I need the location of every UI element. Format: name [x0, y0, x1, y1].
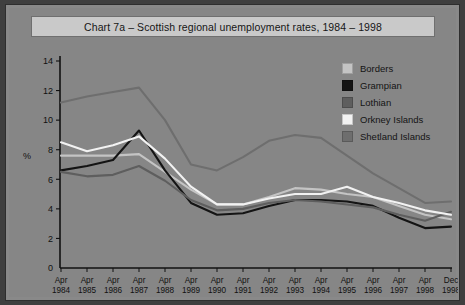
y-tick-label: 4: [48, 204, 53, 214]
x-tick-label-year: 1995: [338, 286, 357, 295]
x-tick-label-year: 1989: [182, 286, 201, 295]
y-tick-label: 12: [43, 86, 53, 96]
x-tick-label-year: 1991: [234, 286, 253, 295]
page-title: Chart 7a – Scottish regional unemploymen…: [84, 21, 382, 33]
chart-title-banner: Chart 7a – Scottish regional unemploymen…: [31, 16, 435, 37]
legend-swatch-icon: [342, 97, 353, 108]
y-tick-label: 2: [48, 234, 53, 244]
legend-item-label: Shetland Islands: [360, 131, 430, 142]
y-axis-ticks: 02468101214: [43, 56, 60, 273]
series-line-lothian: [61, 166, 451, 221]
y-tick-label: 0: [48, 263, 53, 273]
x-tick-label-year: 1990: [208, 286, 227, 295]
x-tick-label-month: Apr: [315, 276, 328, 285]
x-tick-label-year: 1998: [416, 286, 435, 295]
legend-swatch-icon: [342, 63, 353, 74]
chart-panel: Chart 7a – Scottish regional unemploymen…: [9, 8, 456, 297]
x-tick-label-month: Apr: [211, 276, 224, 285]
x-tick-label-year: 1994: [312, 286, 331, 295]
x-tick-label-year: 1986: [104, 286, 123, 295]
x-tick-label-year: 1985: [78, 286, 97, 295]
x-axis-ticks: Apr1984Apr1985Apr1986Apr1987Apr1988Apr19…: [52, 268, 458, 295]
legend-item-orkney-islands[interactable]: Orkney Islands: [342, 111, 465, 128]
x-tick-label-month: Apr: [263, 276, 276, 285]
y-tick-label: 14: [43, 56, 53, 66]
x-tick-label-month: Apr: [185, 276, 198, 285]
x-tick-label-year: 1993: [286, 286, 305, 295]
legend-item-grampian[interactable]: Grampian: [342, 77, 465, 94]
chart-legend: BordersGrampianLothianOrkney IslandsShet…: [342, 60, 465, 145]
legend-item-label: Borders: [360, 63, 393, 74]
x-tick-label-year: 1988: [156, 286, 175, 295]
x-tick-label-year: 1997: [390, 286, 409, 295]
x-tick-label-year: 1992: [260, 286, 279, 295]
legend-item-label: Orkney Islands: [360, 114, 423, 125]
y-axis-label: %: [23, 151, 31, 161]
x-tick-label-month: Apr: [81, 276, 94, 285]
x-tick-label-month: Dec: [444, 276, 458, 285]
y-tick-label: 8: [48, 145, 53, 155]
x-tick-label-month: Apr: [393, 276, 406, 285]
x-tick-label-month: Apr: [289, 276, 302, 285]
legend-item-borders[interactable]: Borders: [342, 60, 465, 77]
x-tick-label-month: Apr: [341, 276, 354, 285]
legend-item-lothian[interactable]: Lothian: [342, 94, 465, 111]
x-tick-label-month: Apr: [419, 276, 432, 285]
legend-item-shetland-islands[interactable]: Shetland Islands: [342, 128, 465, 145]
x-tick-label-year: 1987: [130, 286, 149, 295]
y-axis-title: %: [23, 151, 31, 161]
x-tick-label-month: Apr: [55, 276, 68, 285]
legend-item-label: Lothian: [360, 97, 391, 108]
y-tick-label: 10: [43, 115, 53, 125]
chart-outer-frame: Chart 7a – Scottish regional unemploymen…: [5, 4, 460, 301]
screenshot-root: Chart 7a – Scottish regional unemploymen…: [0, 0, 465, 305]
x-tick-label-month: Apr: [367, 276, 380, 285]
x-tick-label-month: Apr: [237, 276, 250, 285]
legend-swatch-icon: [342, 114, 353, 125]
x-tick-label-year: 1984: [52, 286, 71, 295]
x-tick-label-month: Apr: [159, 276, 172, 285]
legend-swatch-icon: [342, 80, 353, 91]
y-tick-label: 6: [48, 175, 53, 185]
x-tick-label-year: 1996: [364, 286, 383, 295]
legend-swatch-icon: [342, 131, 353, 142]
x-tick-label-month: Apr: [107, 276, 120, 285]
legend-item-label: Grampian: [360, 80, 402, 91]
x-tick-label-year: 1998: [442, 286, 458, 295]
x-tick-label-month: Apr: [133, 276, 146, 285]
